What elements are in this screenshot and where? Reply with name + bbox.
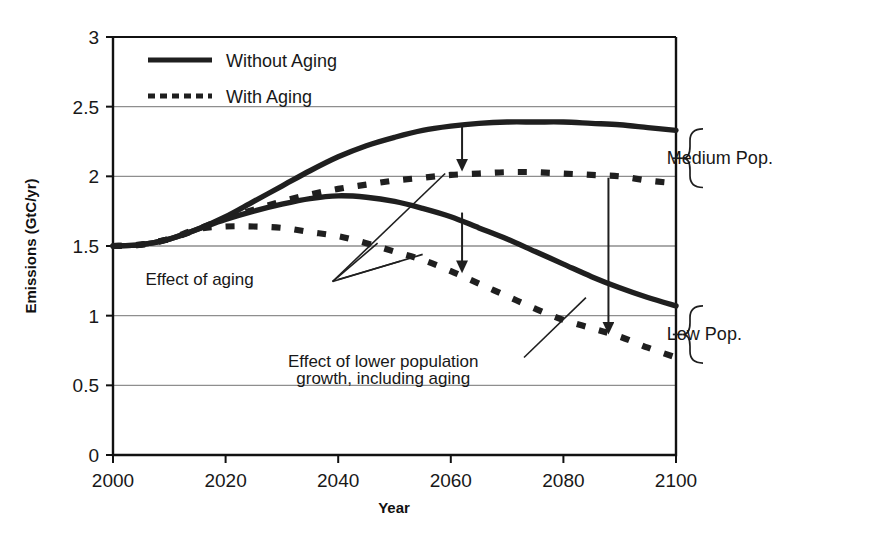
x-axis-title: Year [378,499,410,516]
y-tick-label: 3 [88,27,99,48]
x-tick-label: 2000 [92,470,134,491]
emissions-aging-chart: 00.511.522.53 200020202040206020802100 E… [0,0,873,543]
chart-canvas: 00.511.522.53 200020202040206020802100 E… [0,0,873,543]
legend-label-with-aging: With Aging [226,87,312,107]
x-tick-label: 2040 [317,470,359,491]
y-tick-label: 0.5 [73,375,99,396]
legend-label-without-aging: Without Aging [226,51,337,71]
x-tick-label: 2080 [542,470,584,491]
x-tick-label: 2100 [655,470,697,491]
y-tick-label: 0 [88,445,99,466]
annotation-text: Effect of aging [145,270,253,289]
y-axis-title: Emissions (GtC/yr) [22,178,39,313]
x-tick-label: 2020 [204,470,246,491]
chart-background [0,0,873,543]
y-tick-label: 1 [88,306,99,327]
y-tick-label: 1.5 [73,236,99,257]
y-tick-label: 2.5 [73,97,99,118]
brace-label: Medium Pop. [667,148,773,168]
y-tick-label: 2 [88,166,99,187]
brace-label: Low Pop. [667,324,742,344]
x-tick-label: 2060 [430,470,472,491]
annotation-text: growth, including aging [296,369,470,388]
